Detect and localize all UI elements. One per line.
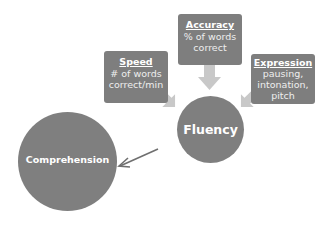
speed-description: # of words correct/min <box>104 68 168 90</box>
expression-description: pausing, intonation, pitch <box>251 68 315 101</box>
accuracy-title: Accuracy <box>178 19 242 30</box>
speed-box: Speed # of words correct/min <box>104 51 168 103</box>
fluency-label: Fluency <box>183 122 238 137</box>
expression-title: Expression <box>251 57 315 68</box>
expression-box: Expression pausing, intonation, pitch <box>251 54 315 104</box>
fluency-circle: Fluency <box>177 96 244 163</box>
comprehension-label: Comprehension <box>26 154 110 165</box>
comprehension-circle: Comprehension <box>18 112 117 211</box>
speed-title: Speed <box>104 56 168 67</box>
accuracy-box: Accuracy % of words correct <box>178 14 242 65</box>
accuracy-arrow-icon <box>198 65 221 90</box>
accuracy-description: % of words correct <box>178 31 242 53</box>
comprehension-arrow-icon <box>119 149 158 167</box>
